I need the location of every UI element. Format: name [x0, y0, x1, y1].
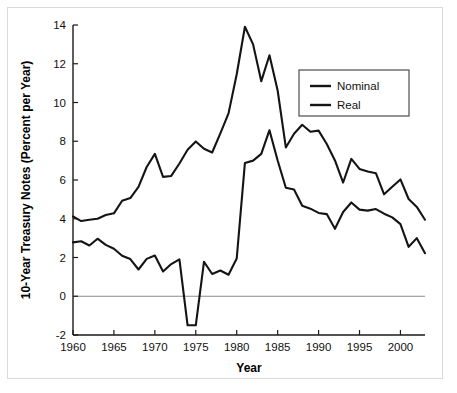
x-tick-label: 1980	[224, 341, 250, 353]
y-tick-label: 10	[53, 97, 66, 109]
series-line-nominal	[73, 27, 425, 221]
x-tick-label: 1960	[60, 341, 86, 353]
figure-card: -202468101214 19601965197019751980198519…	[7, 7, 443, 379]
legend-label-nominal: Nominal	[337, 80, 379, 92]
x-tick-label: 1970	[142, 341, 168, 353]
x-tick-label: 1990	[306, 341, 332, 353]
legend-label-real: Real	[337, 99, 361, 111]
y-axis-ticks: -202468101214	[53, 19, 78, 341]
x-axis-ticks: 196019651970197519801985199019952000	[60, 330, 413, 353]
y-tick-label: 6	[60, 174, 66, 186]
x-tick-label: 2000	[388, 341, 414, 353]
y-tick-label: 4	[60, 213, 67, 225]
y-tick-label: -2	[56, 329, 66, 341]
x-tick-label: 1985	[265, 341, 291, 353]
y-tick-label: 8	[60, 135, 66, 147]
y-tick-label: 12	[53, 58, 66, 70]
y-tick-label: 0	[60, 290, 66, 302]
x-tick-label: 1995	[347, 341, 373, 353]
x-tick-label: 1975	[183, 341, 209, 353]
x-tick-label: 1965	[101, 341, 127, 353]
x-axis-title: Year	[236, 361, 262, 375]
y-axis-title: 10-Year Treasury Notes (Percent per Year…	[19, 61, 33, 300]
chart-legend: NominalReal	[299, 70, 409, 116]
line-chart: -202468101214 19601965197019751980198519…	[8, 8, 442, 378]
y-tick-label: 14	[53, 19, 66, 31]
y-tick-label: 2	[60, 252, 66, 264]
